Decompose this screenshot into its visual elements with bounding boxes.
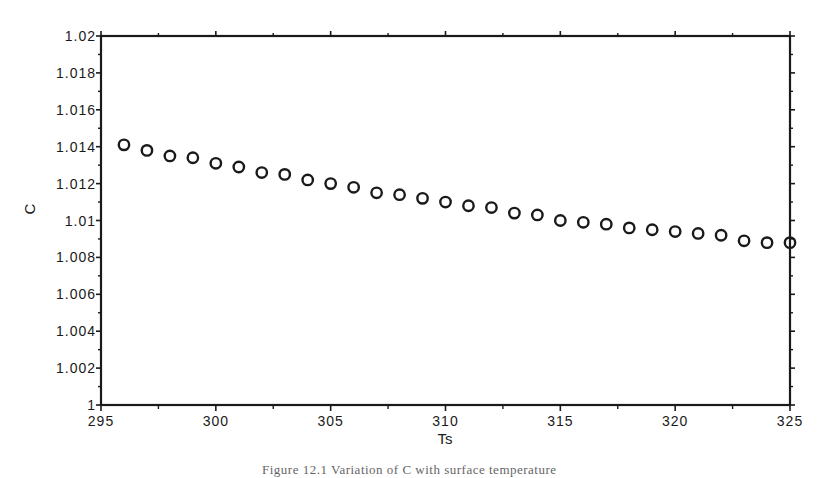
y-tick-label: 1.01 [65,213,96,229]
data-point-marker [348,182,358,192]
data-point-marker [325,178,335,188]
data-point-marker [578,217,588,227]
data-point-marker [739,236,749,246]
x-axis-title: Ts [438,430,453,447]
data-point-marker [647,225,657,235]
y-tick-label: 1 [87,397,96,413]
data-point-marker [486,202,496,212]
y-tick-label: 1.014 [56,139,96,155]
data-point-marker [417,193,427,203]
y-tick-label: 1.018 [56,65,96,81]
data-point-marker [303,175,313,185]
data-point-marker [716,230,726,240]
x-tick-label: 320 [662,413,688,429]
y-tick-label: 1.002 [56,360,96,376]
figure-caption: Figure 12.1 Variation of C with surface … [262,462,557,478]
x-tick-label: 315 [547,413,573,429]
data-point-marker [555,215,565,225]
data-point-marker [532,210,542,220]
x-tick-label: 310 [432,413,458,429]
data-point-marker [693,228,703,238]
data-point-marker [463,201,473,211]
y-tick-label: 1.008 [56,249,96,265]
data-point-marker [165,151,175,161]
y-tick-label: 1.004 [56,323,96,339]
data-point-marker [142,145,152,155]
data-point-marker [371,188,381,198]
data-point-marker [601,219,611,229]
y-axis-ticks: 11.0021.0041.0061.0081.011.0121.0141.016… [56,28,795,413]
data-point-marker [234,162,244,172]
data-point-marker [119,140,129,150]
data-point-marker [280,169,290,179]
y-tick-label: 1.02 [65,28,96,44]
data-point-marker [762,237,772,247]
x-tick-label: 300 [203,413,229,429]
data-point-marker [211,158,221,168]
data-point-marker [670,226,680,236]
data-point-marker [509,208,519,218]
data-point-marker [394,189,404,199]
x-tick-label: 305 [317,413,343,429]
data-point-marker [257,167,267,177]
plot-frame [101,36,790,405]
data-point-marker [440,197,450,207]
data-series-c [119,140,795,248]
y-tick-label: 1.016 [56,102,96,118]
y-axis-title: C [21,203,38,214]
data-point-marker [188,153,198,163]
data-point-marker [624,223,634,233]
x-tick-label: 325 [777,413,803,429]
y-tick-label: 1.006 [56,286,96,302]
x-tick-label: 295 [88,413,114,429]
y-tick-label: 1.012 [56,176,96,192]
